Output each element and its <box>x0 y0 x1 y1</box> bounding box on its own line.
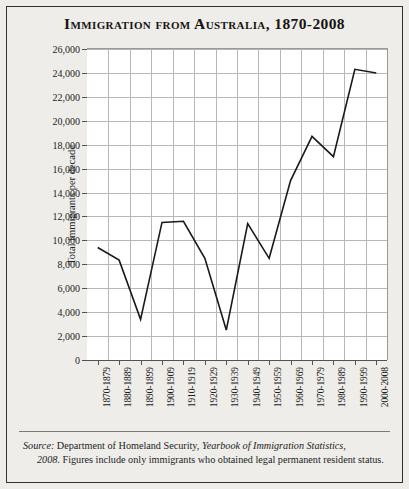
x-tick-label: 1890-1899 <box>145 367 155 407</box>
source-text-c: resident status. <box>323 454 384 465</box>
source-divider <box>19 431 390 432</box>
y-tick-mark <box>82 360 87 361</box>
figure-container: Immigration from Australia, 1870-2008 To… <box>0 0 409 489</box>
plot-wrapper: Total immigrants per decade 02,0004,0006… <box>7 7 402 482</box>
y-tick-label: 2,000 <box>18 331 80 342</box>
y-tick-label: 10,000 <box>18 235 80 246</box>
y-tick-label: 12,000 <box>18 211 80 222</box>
x-tick-label: 1910-1919 <box>187 367 197 407</box>
x-tick-mark <box>248 360 249 365</box>
x-tick-label: 2000-2008 <box>380 367 390 407</box>
x-tick-label: 1900-1909 <box>166 367 176 407</box>
y-tick-label: 8,000 <box>18 259 80 270</box>
x-tick-label: 1870-1879 <box>102 367 112 407</box>
source-continuation: 2008. Figures include only immigrants wh… <box>23 453 388 467</box>
y-tick-label: 14,000 <box>18 187 80 198</box>
y-tick-label: 20,000 <box>18 115 80 126</box>
x-tick-label: 1920-1929 <box>209 367 219 407</box>
y-tick-label: 16,000 <box>18 163 80 174</box>
x-tick-label: 1930-1939 <box>230 367 240 407</box>
x-tick-mark <box>183 360 184 365</box>
x-tick-label: 1970-1979 <box>316 367 326 407</box>
x-tick-label: 1980-1989 <box>337 367 347 407</box>
x-tick-mark <box>226 360 227 365</box>
x-tick-label: 1950-1959 <box>273 367 283 407</box>
plot-area: Total immigrants per decade 02,0004,0006… <box>87 48 388 360</box>
data-series-line <box>87 49 387 360</box>
y-tick-label: 6,000 <box>18 283 80 294</box>
x-tick-mark <box>333 360 334 365</box>
x-tick-mark <box>355 360 356 365</box>
source-text-b: Figures include only immigrants who obta… <box>60 454 321 465</box>
source-publication: Yearbook of Immigration Statistics, <box>202 440 346 451</box>
y-tick-label: 18,000 <box>18 139 80 150</box>
y-tick-label: 26,000 <box>18 44 80 55</box>
x-tick-mark <box>312 360 313 365</box>
x-tick-mark <box>141 360 142 365</box>
x-tick-label: 1940-1949 <box>252 367 262 407</box>
source-text-a: Department of Homeland Security, <box>54 440 202 451</box>
x-tick-mark <box>269 360 270 365</box>
x-tick-mark <box>119 360 120 365</box>
y-tick-label: 4,000 <box>18 307 80 318</box>
x-tick-label: 1880-1889 <box>123 367 133 407</box>
y-tick-label: 0 <box>18 355 80 366</box>
source-label: Source: <box>23 440 54 451</box>
source-year: 2008. <box>37 454 60 465</box>
x-tick-mark <box>376 360 377 365</box>
x-tick-label: 1960-1969 <box>295 367 305 407</box>
y-tick-label: 24,000 <box>18 67 80 78</box>
x-tick-mark <box>162 360 163 365</box>
x-tick-label: 1990-1999 <box>359 367 369 407</box>
y-tick-label: 22,000 <box>18 91 80 102</box>
gridline-horizontal <box>87 360 387 361</box>
x-tick-mark <box>291 360 292 365</box>
x-tick-mark <box>205 360 206 365</box>
x-tick-mark <box>98 360 99 365</box>
figure-frame: Immigration from Australia, 1870-2008 To… <box>6 6 403 483</box>
source-note: Source: Department of Homeland Security,… <box>23 439 388 468</box>
